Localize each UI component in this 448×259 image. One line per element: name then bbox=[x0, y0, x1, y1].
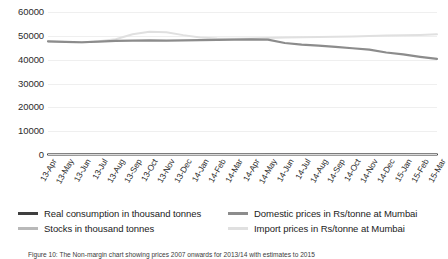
series-line bbox=[48, 39, 437, 59]
legend-label: Stocks in thousand tonnes bbox=[44, 223, 154, 234]
x-axis-tick-labels: 13-Apr13-May13-Jun13-Jul13-Aug13-Sep13-O… bbox=[48, 157, 437, 205]
legend-item[interactable]: Import prices in Rs/tonne at Mumbai bbox=[228, 221, 405, 235]
legend-label: Import prices in Rs/tonne at Mumbai bbox=[254, 223, 405, 234]
legend-label: Domestic prices in Rs/tonne at Mumbai bbox=[254, 208, 417, 219]
x-axis-line bbox=[48, 154, 437, 155]
legend-color-swatch bbox=[18, 212, 38, 215]
legend-item[interactable]: Stocks in thousand tonnes bbox=[18, 221, 154, 235]
y-axis-tick-label: 50000 bbox=[0, 31, 44, 41]
y-axis-tick-label: 0 bbox=[0, 150, 44, 160]
legend-item[interactable]: Real consumption in thousand tonnes bbox=[18, 206, 201, 220]
y-axis-tick-label: 30000 bbox=[0, 79, 44, 89]
plot-area bbox=[48, 12, 437, 155]
plot-region: 6000050000400003000020000100000 bbox=[0, 0, 445, 160]
y-axis-tick-label: 40000 bbox=[0, 55, 44, 65]
series-lines bbox=[48, 12, 437, 155]
figure-caption: Figure 10: The Non-margin chart showing … bbox=[28, 251, 428, 259]
legend-color-swatch bbox=[228, 227, 248, 230]
y-axis-tick-label: 20000 bbox=[0, 102, 44, 112]
chart-legend: Real consumption in thousand tonnesStock… bbox=[0, 206, 445, 242]
y-axis-tick-label: 60000 bbox=[0, 7, 44, 17]
y-axis-tick-labels: 6000050000400003000020000100000 bbox=[0, 0, 44, 160]
legend-label: Real consumption in thousand tonnes bbox=[44, 208, 201, 219]
legend-color-swatch bbox=[18, 227, 38, 230]
legend-color-swatch bbox=[228, 212, 248, 215]
y-axis-tick-label: 10000 bbox=[0, 126, 44, 136]
legend-item[interactable]: Domestic prices in Rs/tonne at Mumbai bbox=[228, 206, 417, 220]
